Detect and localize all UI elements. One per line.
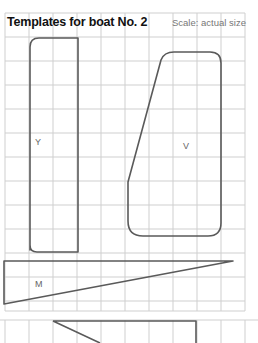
grid-sheet	[0, 0, 258, 343]
template-y-label: Y	[35, 137, 41, 147]
page-title: Templates for boat No. 2	[7, 15, 147, 29]
template-m-label: M	[35, 279, 43, 289]
scale-note: Scale: actual size	[172, 17, 246, 28]
template-v-label: V	[183, 141, 189, 151]
template-v-outline	[128, 52, 221, 236]
